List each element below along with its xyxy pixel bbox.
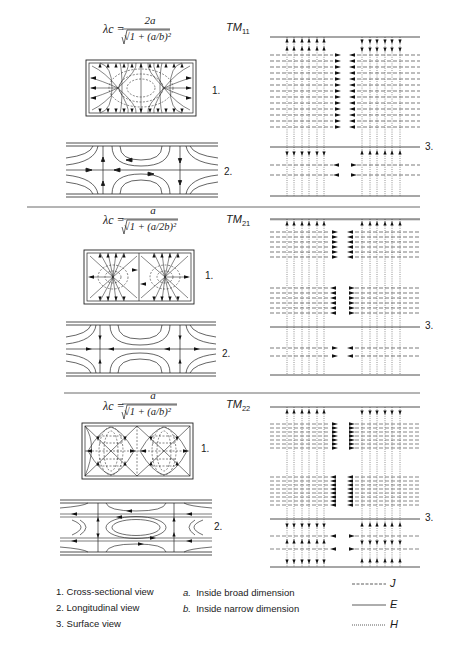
legend-view-2: 2. Longitudinal view bbox=[56, 602, 139, 613]
mode-label-tm22: TM22 bbox=[226, 398, 250, 413]
legend-label-j: J bbox=[390, 577, 396, 589]
formula-numerator: a bbox=[133, 204, 173, 216]
formula-lhs: λc = bbox=[103, 213, 125, 228]
formula-numerator: 2a bbox=[130, 14, 170, 26]
tm11-surface-view bbox=[270, 37, 420, 196]
tm22-cross-section bbox=[82, 423, 193, 479]
formula-lhs: λc = bbox=[103, 22, 125, 37]
formula-lhs: λc = bbox=[103, 399, 125, 414]
legend-view-3: 3. Surface view bbox=[56, 618, 121, 629]
view-label-surface: 3. bbox=[425, 141, 433, 152]
waveguide-mode-diagram bbox=[0, 0, 453, 651]
view-label-longitudinal: 2. bbox=[214, 521, 222, 532]
tm11-cross-section bbox=[86, 60, 196, 116]
legend-dimension-b: b. Inside narrow dimension bbox=[183, 603, 299, 614]
view-label-cross-section: 1. bbox=[201, 443, 209, 454]
view-label-surface: 3. bbox=[425, 512, 433, 523]
formula-denominator: √1 + (a/b)² bbox=[124, 406, 171, 417]
tm21-surface-view bbox=[260, 208, 420, 375]
view-label-longitudinal: 2. bbox=[224, 166, 232, 177]
tm11-longitudinal bbox=[66, 143, 218, 197]
formula-numerator: a bbox=[133, 389, 173, 401]
legend-view-1: 1. Cross-sectional view bbox=[56, 586, 154, 597]
tm22-longitudinal bbox=[60, 500, 212, 555]
mode-label-tm21: TM21 bbox=[226, 213, 250, 228]
tm21-longitudinal bbox=[66, 322, 216, 376]
legend-label-h: H bbox=[390, 618, 398, 630]
tm22-surface-view bbox=[270, 407, 420, 567]
view-label-longitudinal: 2. bbox=[222, 348, 230, 359]
view-label-cross-section: 1. bbox=[205, 270, 213, 281]
tm21-cross-section bbox=[84, 250, 194, 304]
legend-dimension-a: a. Inside broad dimension bbox=[183, 587, 294, 598]
view-label-surface: 3. bbox=[425, 320, 433, 331]
mode-label-tm11: TM11 bbox=[226, 21, 250, 36]
formula-denominator: √1 + (a/2b)² bbox=[124, 221, 176, 232]
formula-denominator: √1 + (a/b)² bbox=[124, 31, 171, 42]
legend-line-samples bbox=[352, 584, 386, 625]
view-label-cross-section: 1. bbox=[212, 85, 220, 96]
legend-label-e: E bbox=[390, 598, 397, 610]
